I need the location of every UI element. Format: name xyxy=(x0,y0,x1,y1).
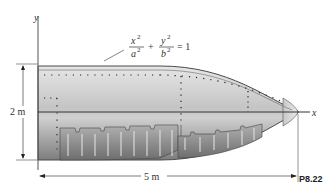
dim-length-label: 5 m xyxy=(144,171,160,182)
eq-exp-2b: 2 xyxy=(167,46,171,54)
equation-leader xyxy=(104,50,124,61)
eq-exp-2: 2 xyxy=(167,33,171,41)
fuselage-diagram: y x x 2 a 2 + y 2 b 2 = 1 2 m 5 m P8.22 xyxy=(0,0,334,196)
dim-height-label: 2 m xyxy=(10,106,26,117)
y-axis-label: y xyxy=(33,12,39,23)
eq-plus: + xyxy=(148,41,154,52)
dim-arrow-up xyxy=(21,65,25,70)
eq-rhs: = 1 xyxy=(177,41,190,52)
x-axis-label: x xyxy=(311,107,317,118)
eq-num-2: y xyxy=(160,35,166,46)
dim-arrow-right xyxy=(291,174,297,178)
eq-exp-1b: 2 xyxy=(137,46,141,54)
eq-num-1: x xyxy=(130,35,136,46)
eq-den-1: a xyxy=(131,48,136,59)
eq-exp-1: 2 xyxy=(137,33,141,41)
dim-arrow-left xyxy=(39,174,45,178)
dim-arrow-down xyxy=(21,154,25,159)
eq-den-2: b xyxy=(161,48,166,59)
ellipse-equation: x 2 a 2 + y 2 b 2 = 1 xyxy=(129,33,190,59)
problem-label: P8.22 xyxy=(299,174,323,184)
